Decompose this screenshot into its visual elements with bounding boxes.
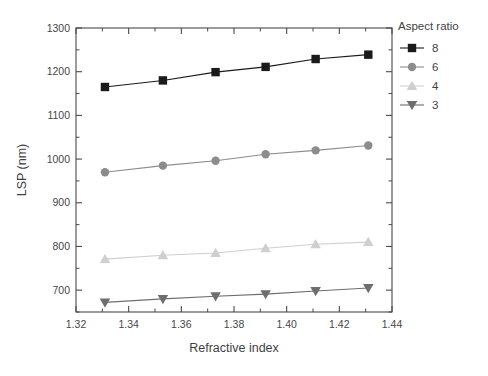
marker-circle [261,150,269,158]
y-tick-label: 800 [52,240,70,252]
marker-square [364,50,372,58]
y-tick-label: 1200 [47,65,71,77]
legend-title: Aspect ratio [398,20,459,32]
legend-label: 6 [432,61,438,73]
x-tick-label: 1.42 [329,318,350,330]
chart-figure: 7008009001000110012001300 1.321.341.361.… [0,0,488,376]
marker-circle [311,146,319,154]
x-tick-label: 1.40 [276,318,297,330]
x-tick-label: 1.44 [382,318,403,330]
marker-circle [159,161,167,169]
y-tick-label: 1100 [47,109,70,121]
marker-square [101,83,109,91]
legend-label: 4 [432,80,439,92]
legend-label: 3 [432,99,438,111]
y-tick-label: 1000 [47,153,71,165]
marker-circle [211,157,219,165]
marker-circle [364,141,372,149]
y-axis-title: LSP (nm) [15,144,29,197]
marker-circle [408,63,416,71]
marker-square [261,63,269,71]
marker-square [311,55,319,63]
marker-square [408,44,416,52]
y-tick-label: 900 [52,196,70,208]
chart-svg: 7008009001000110012001300 1.321.341.361.… [0,0,488,376]
x-tick-label: 1.36 [171,318,192,330]
y-tick-label: 700 [52,284,70,296]
x-tick-label: 1.32 [66,318,87,330]
marker-square [211,68,219,76]
marker-circle [101,168,109,176]
y-tick-label: 1300 [47,22,71,34]
x-axis-title: Refractive index [189,341,279,355]
x-tick-label: 1.38 [224,318,245,330]
marker-square [159,76,167,84]
legend-label: 8 [432,42,438,54]
x-tick-label: 1.34 [118,318,139,330]
